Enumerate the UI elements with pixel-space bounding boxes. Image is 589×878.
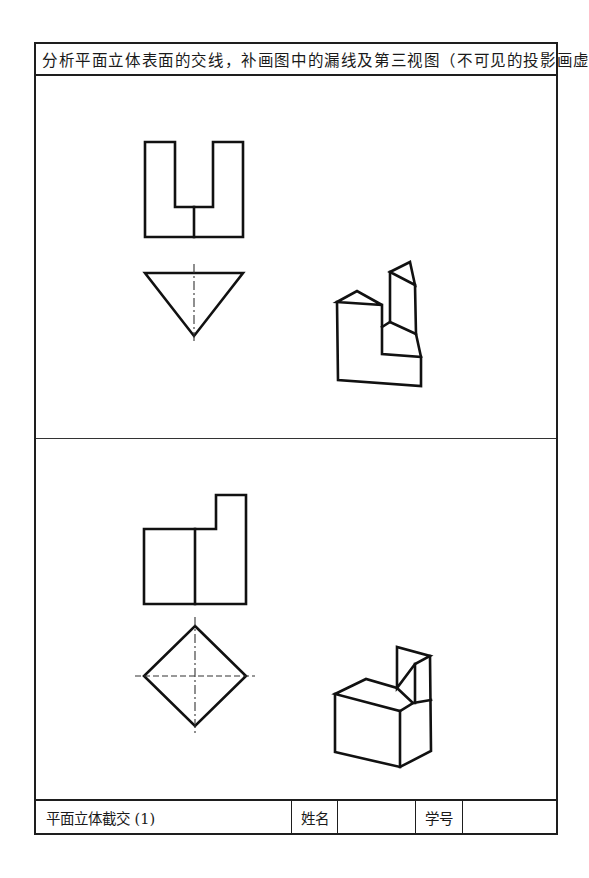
worksheet-page: 分析平面立体表面的交线，补画图中的漏线及第三视图（不可见的投影画虚线） 平面立体…: [0, 0, 589, 878]
name-label: 姓名: [292, 801, 338, 833]
problem-2-panel: [36, 439, 556, 803]
drawing-frame: 分析平面立体表面的交线，补画图中的漏线及第三视图（不可见的投影画虚线） 平面立体…: [34, 42, 558, 835]
title-block: 平面立体截交 (1) 姓名 学号: [36, 799, 556, 833]
student-id-field[interactable]: [463, 801, 556, 833]
student-id-label: 学号: [416, 801, 463, 833]
problem-1-panel: [36, 76, 556, 439]
worksheet-title: 分析平面立体表面的交线，补画图中的漏线及第三视图（不可见的投影画虚线）: [36, 44, 556, 76]
exercise-name: 平面立体截交 (1): [36, 801, 292, 833]
name-field[interactable]: [338, 801, 416, 833]
